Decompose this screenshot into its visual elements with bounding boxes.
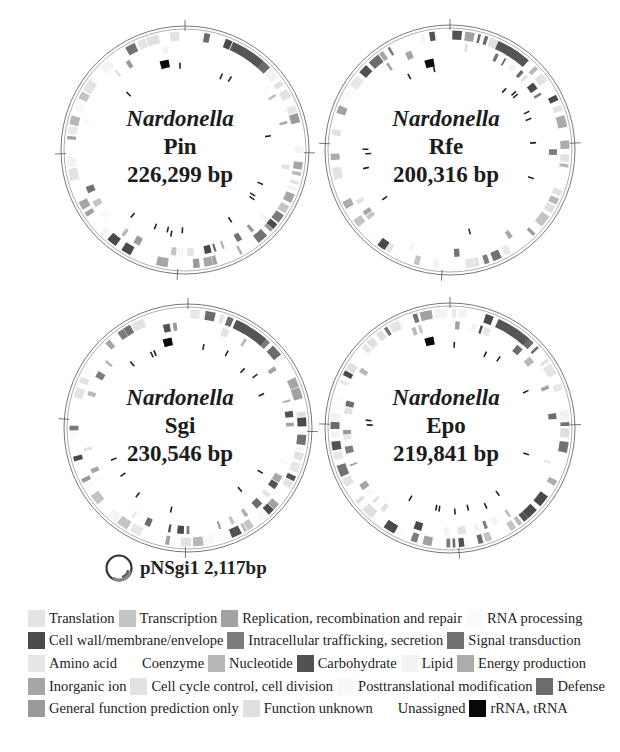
genome-size: 219,841 bp (346, 440, 546, 468)
legend-label: General function prediction only (49, 700, 239, 717)
legend-swatch (119, 610, 136, 627)
legend-item: Energy production (457, 655, 586, 672)
genome-label-rfe: Nardonella Rfe 200,316 bp (346, 105, 546, 189)
strain-name: Pin (80, 133, 280, 161)
legend-item: rRNA, tRNA (469, 700, 567, 717)
legend-swatch (121, 655, 138, 672)
legend-item: Coenzyme (121, 655, 204, 672)
legend-label: Lipid (422, 655, 453, 672)
legend-swatch (221, 610, 238, 627)
legend-swatch (469, 700, 486, 717)
legend-label: Signal transduction (468, 632, 580, 649)
legend-swatch (227, 632, 244, 649)
legend-label: Nucleotide (229, 655, 293, 672)
legend-label: RNA processing (487, 610, 582, 627)
legend-row: TranslationTranscriptionReplication, rec… (28, 607, 618, 630)
legend-label: Cell wall/membrane/envelope (49, 632, 223, 649)
legend-swatch (447, 632, 464, 649)
legend-item: Carbohydrate (297, 655, 397, 672)
genome-size: 226,299 bp (80, 161, 280, 189)
genome-size: 200,316 bp (346, 161, 546, 189)
legend-row: Amino acidCoenzymeNucleotideCarbohydrate… (28, 652, 618, 675)
legend-item: Function unknown (243, 700, 373, 717)
legend-item: Cell wall/membrane/envelope (28, 632, 223, 649)
legend-label: Function unknown (264, 700, 373, 717)
legend-label: Posttranslational modification (358, 678, 532, 695)
legend-label: Coenzyme (142, 655, 204, 672)
legend-swatch (28, 700, 45, 717)
genus-name: Nardonella (346, 384, 546, 412)
genome-size: 230,546 bp (80, 440, 280, 468)
legend-label: rRNA, tRNA (490, 700, 567, 717)
legend-swatch (208, 655, 225, 672)
plasmid-circle-icon (104, 553, 134, 583)
plasmid-map: pNSgi1 2,117bp (104, 553, 267, 583)
legend-item: General function prediction only (28, 700, 239, 717)
legend-item: Unassigned (377, 700, 466, 717)
legend-label: Translation (49, 610, 115, 627)
rrna-operon-block (164, 341, 173, 343)
legend-item: Lipid (401, 655, 453, 672)
legend-row: Cell wall/membrane/envelopeIntracellular… (28, 630, 618, 653)
strain-name: Sgi (80, 412, 280, 440)
legend-swatch (28, 632, 45, 649)
legend-item: Amino acid (28, 655, 117, 672)
legend-label: Replication, recombination and repair (242, 610, 462, 627)
legend-swatch (536, 678, 553, 695)
legend-swatch (337, 678, 354, 695)
legend-swatch (28, 678, 45, 695)
legend-swatch (466, 610, 483, 627)
legend-label: Carbohydrate (318, 655, 397, 672)
legend-label: Cell cycle control, cell division (151, 678, 333, 695)
legend-swatch (297, 655, 314, 672)
legend-row: General function prediction onlyFunction… (28, 697, 618, 720)
strain-name: Epo (346, 412, 546, 440)
genus-name: Nardonella (80, 384, 280, 412)
legend-item: Replication, recombination and repair (221, 610, 462, 627)
plasmid-label: pNSgi1 2,117bp (140, 557, 267, 579)
genome-label-epo: Nardonella Epo 219,841 bp (346, 384, 546, 468)
legend-item: Posttranslational modification (337, 678, 532, 695)
legend-label: Defense (557, 678, 605, 695)
legend-item: Translation (28, 610, 115, 627)
genus-name: Nardonella (346, 105, 546, 133)
legend-item: Transcription (119, 610, 218, 627)
legend-item: Cell cycle control, cell division (130, 678, 333, 695)
legend-label: Inorganic ion (49, 678, 126, 695)
legend-swatch (377, 700, 394, 717)
legend-label: Transcription (140, 610, 218, 627)
legend-item: RNA processing (466, 610, 582, 627)
rrna-operon-block (425, 340, 434, 342)
rrna-operon-block (161, 63, 170, 65)
legend-swatch (130, 678, 147, 695)
genus-name: Nardonella (80, 105, 280, 133)
genome-label-pin: Nardonella Pin 226,299 bp (80, 105, 280, 189)
legend-swatch (243, 700, 260, 717)
legend-swatch (457, 655, 474, 672)
legend-item: Intracellular trafficking, secretion (227, 632, 443, 649)
legend-label: Unassigned (398, 700, 466, 717)
legend-label: Energy production (478, 655, 586, 672)
legend-item: Inorganic ion (28, 678, 126, 695)
legend-item: Defense (536, 678, 605, 695)
legend-label: Amino acid (49, 655, 117, 672)
genome-label-sgi: Nardonella Sgi 230,546 bp (80, 384, 280, 468)
rrna-operon-block (425, 62, 434, 64)
legend-item: Signal transduction (447, 632, 580, 649)
cog-legend: TranslationTranscriptionReplication, rec… (28, 607, 618, 720)
genome-maps (0, 0, 620, 600)
strain-name: Rfe (346, 133, 546, 161)
legend-row: Inorganic ionCell cycle control, cell di… (28, 675, 618, 698)
legend-label: Intracellular trafficking, secretion (248, 632, 443, 649)
legend-swatch (28, 610, 45, 627)
legend-item: Nucleotide (208, 655, 293, 672)
legend-swatch (28, 655, 45, 672)
legend-swatch (401, 655, 418, 672)
